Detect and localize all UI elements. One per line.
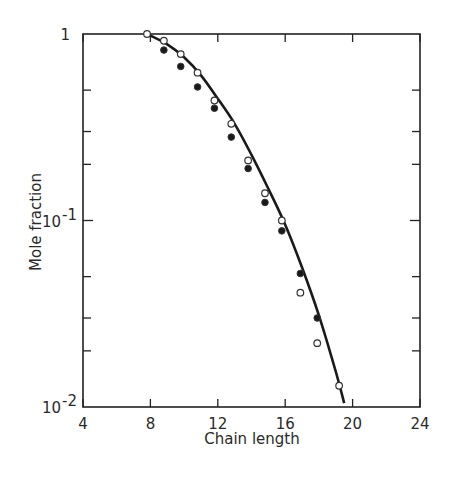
plot-border — [83, 34, 420, 407]
open-data-point — [262, 190, 269, 197]
chart: 4812162024110-110-2 Chain length Mole fr… — [0, 0, 474, 478]
y-tick-label: 1 — [60, 26, 70, 44]
y-axis-title: Mole fraction — [27, 173, 45, 271]
filled-data-point — [245, 165, 252, 172]
open-data-point — [194, 69, 201, 76]
filled-data-point — [194, 84, 201, 91]
open-data-point — [211, 97, 218, 104]
x-tick-label: 24 — [410, 415, 429, 433]
fitted-curve — [147, 34, 344, 403]
filled-data-point — [297, 270, 304, 277]
filled-data-point — [228, 134, 235, 141]
filled-data-point — [279, 228, 286, 235]
y-tick-exponent: -1 — [62, 206, 77, 224]
open-data-point — [279, 217, 286, 224]
open-data-point — [314, 340, 321, 347]
x-tick-label: 8 — [146, 415, 156, 433]
open-data-point — [297, 289, 304, 296]
plot-frame — [83, 34, 420, 407]
open-data-point — [177, 51, 184, 58]
filled-data-point — [177, 63, 184, 70]
filled-data-point — [314, 315, 321, 322]
y-tick-label: 10 — [42, 399, 61, 417]
filled-data-point — [262, 199, 269, 206]
x-tick-label: 4 — [78, 415, 88, 433]
axis-labels: 4812162024110-110-2 — [42, 26, 430, 433]
open-data-point — [336, 382, 343, 389]
x-tick-label: 20 — [343, 415, 362, 433]
axis-ticks — [83, 34, 420, 407]
open-data-point — [228, 120, 235, 127]
filled-data-point — [211, 105, 218, 112]
fit-line — [147, 34, 344, 403]
data-points — [144, 31, 343, 389]
open-data-point — [144, 31, 151, 38]
y-tick-exponent: -2 — [62, 392, 77, 410]
filled-data-point — [161, 47, 168, 54]
x-axis-title: Chain length — [204, 430, 299, 448]
open-data-point — [245, 157, 252, 164]
open-data-point — [161, 37, 168, 44]
